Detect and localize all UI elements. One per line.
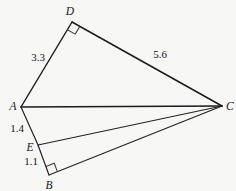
segment-BC [49,106,222,175]
right-angle-group [46,26,80,171]
segment-AC [21,106,222,107]
length-AE: 1.4 [10,123,24,134]
edge-group [21,22,222,175]
segment-DC [72,22,222,106]
segment-EC [38,106,222,145]
length-EB: 1.1 [24,156,38,167]
length-DC: 5.6 [153,49,167,60]
vertex-label-b: B [45,180,52,191]
segment-EB [38,145,49,175]
vertex-label-e: E [26,142,33,154]
vertex-label-a: A [9,101,16,113]
vertex-label-d: D [66,6,75,18]
vertex-label-c: C [226,101,234,113]
length-AD: 3.3 [31,52,45,63]
geometry-figure: ADCEB 3.35.61.41.1 [0,0,236,191]
segment-AD [21,22,72,107]
